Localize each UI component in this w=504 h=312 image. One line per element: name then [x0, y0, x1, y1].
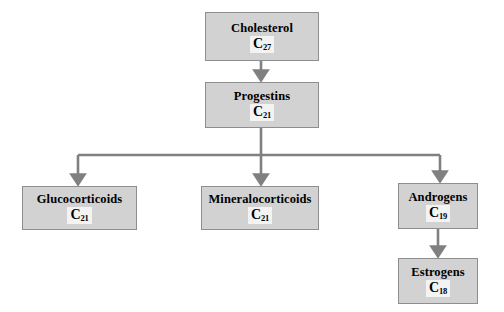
- formula-subscript: 18: [439, 286, 447, 296]
- formula-subscript: 21: [263, 110, 271, 120]
- node-cholesterol-formula: C27: [250, 36, 274, 53]
- node-estrogens: Estrogens C18: [398, 258, 478, 304]
- node-progestins-label: Progestins: [234, 89, 290, 103]
- node-androgens: Androgens C19: [398, 183, 478, 229]
- formula-element: C: [70, 207, 80, 222]
- formula-element: C: [251, 207, 261, 222]
- formula-element: C: [253, 36, 263, 51]
- node-progestins: Progestins C21: [205, 82, 319, 128]
- formula-element: C: [429, 205, 439, 220]
- formula-subscript: 21: [261, 213, 269, 223]
- formula-subscript: 19: [439, 211, 447, 221]
- node-progestins-formula: C21: [250, 104, 274, 121]
- steroid-biosynthesis-diagram: Cholesterol C27 Progestins C21 Glucocort…: [0, 0, 504, 312]
- node-cholesterol: Cholesterol C27: [205, 12, 319, 61]
- node-mineralocorticoids-label: Mineralocorticoids: [208, 192, 311, 206]
- node-glucocorticoids-label: Glucocorticoids: [37, 192, 123, 206]
- node-mineralocorticoids-formula: C21: [248, 207, 272, 224]
- node-mineralocorticoids: Mineralocorticoids C21: [201, 186, 319, 230]
- node-androgens-formula: C19: [426, 205, 450, 222]
- formula-element: C: [429, 280, 439, 295]
- node-cholesterol-label: Cholesterol: [231, 21, 293, 35]
- formula-element: C: [253, 104, 263, 119]
- formula-subscript: 27: [263, 42, 271, 52]
- node-estrogens-formula: C18: [426, 280, 450, 297]
- node-glucocorticoids: Glucocorticoids C21: [22, 186, 137, 230]
- node-androgens-label: Androgens: [408, 190, 467, 204]
- node-estrogens-label: Estrogens: [411, 265, 464, 279]
- formula-subscript: 21: [81, 213, 89, 223]
- node-glucocorticoids-formula: C21: [67, 207, 91, 224]
